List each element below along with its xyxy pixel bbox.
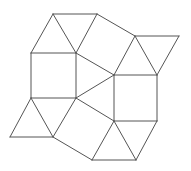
edge-E-M (10, 98, 31, 137)
edge-A-C (31, 14, 53, 53)
edge-K-P (114, 121, 136, 160)
edge-F-J (76, 75, 114, 98)
diagram-svg (0, 0, 191, 171)
edge-B-G (97, 14, 135, 36)
edge-E-N (31, 98, 53, 137)
edge-F-N (53, 98, 76, 137)
geometric-tessellation-diagram (0, 0, 191, 171)
edge-A-D (53, 14, 76, 53)
edge-G-I (135, 36, 157, 75)
edge-N-O (53, 137, 92, 160)
edge-H-I (157, 36, 179, 75)
edge-D-J (76, 53, 114, 75)
edge-F-K (76, 98, 114, 121)
edge-B-D (76, 14, 97, 53)
edge-L-P (136, 121, 157, 160)
edge-group (10, 14, 179, 160)
edge-K-O (92, 121, 114, 160)
edge-G-J (114, 36, 135, 75)
